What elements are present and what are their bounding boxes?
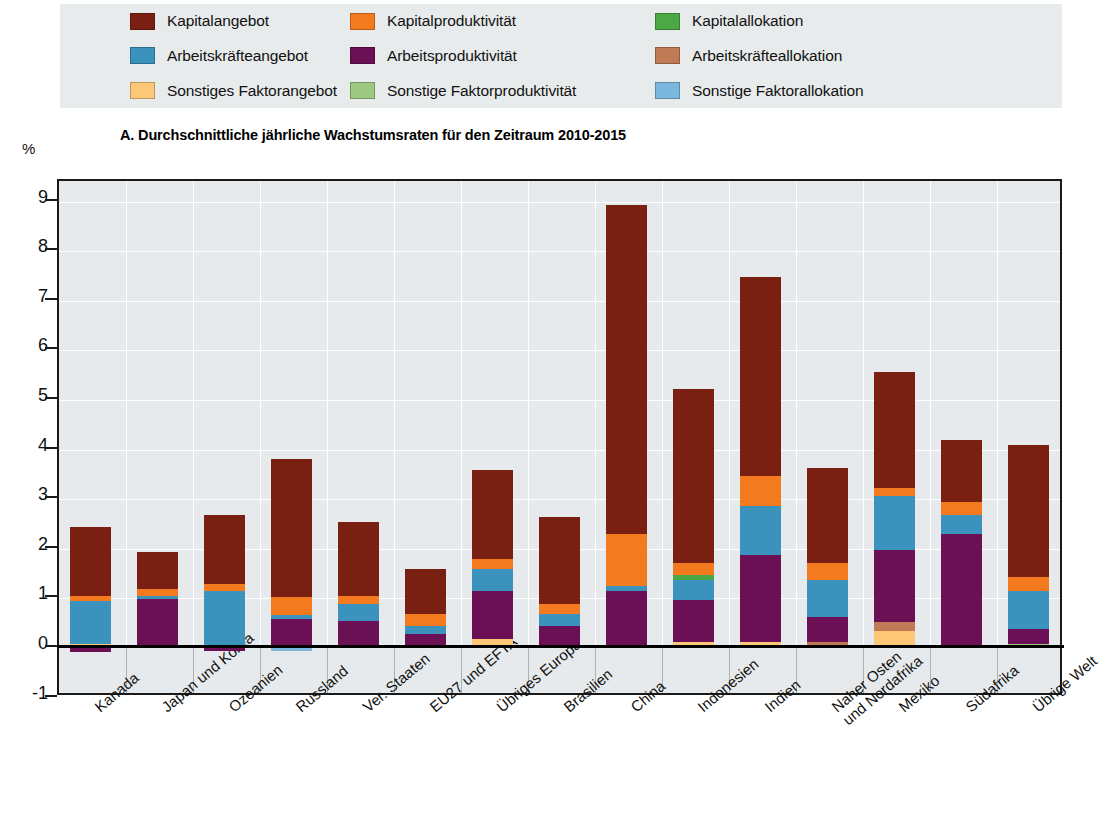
bar-segment[interactable] [539, 517, 579, 604]
bar-segment[interactable] [472, 559, 512, 569]
legend-item[interactable]: Arbeitskräfteallokation [627, 39, 1062, 74]
bar-group[interactable] [673, 179, 713, 695]
bar-segment[interactable] [1008, 629, 1048, 644]
bar-segment[interactable] [673, 389, 713, 563]
bar-segment[interactable] [271, 615, 311, 619]
legend-item[interactable]: Arbeitsproduktivität [332, 39, 627, 74]
legend-label: Kapitalproduktivität [387, 12, 516, 30]
bar-segment[interactable] [539, 614, 579, 626]
bar-segment[interactable] [874, 496, 914, 551]
bar-segment[interactable] [807, 563, 847, 580]
bar-group[interactable] [472, 179, 512, 695]
bar-segment[interactable] [539, 626, 579, 646]
bar-segment[interactable] [941, 534, 981, 646]
bar-group[interactable] [271, 179, 311, 695]
bar-segment[interactable] [606, 591, 646, 646]
bar-segment[interactable] [606, 586, 646, 591]
bar-segment[interactable] [807, 580, 847, 617]
y-axis-tick-label: 0 [8, 633, 48, 654]
bar-segment[interactable] [874, 631, 914, 646]
bar-segment[interactable] [472, 591, 512, 638]
bar-segment[interactable] [271, 597, 311, 614]
bar-segment[interactable] [807, 617, 847, 642]
y-axis-tick [45, 347, 57, 349]
bar-segment[interactable] [941, 515, 981, 535]
bar-segment[interactable] [740, 476, 780, 506]
legend-item[interactable]: Sonstige Faktorallokation [627, 73, 1062, 108]
x-axis-labels: KanadaJapan und KoreaOzeanienRusslandVer… [57, 695, 1062, 834]
bar-segment[interactable] [941, 440, 981, 502]
bar-group[interactable] [405, 179, 445, 695]
bar-segment[interactable] [204, 591, 244, 646]
bar-segment[interactable] [204, 584, 244, 591]
bar-segment[interactable] [1008, 445, 1048, 576]
bar-group[interactable] [137, 179, 177, 695]
bar-segment[interactable] [338, 621, 378, 646]
bar-group[interactable] [204, 179, 244, 695]
bar-segment[interactable] [874, 550, 914, 622]
bar-segment[interactable] [673, 580, 713, 600]
legend-swatch-icon [130, 47, 155, 64]
bar-segment[interactable] [1008, 577, 1048, 592]
legend-item[interactable]: Arbeitskräfteangebot [60, 39, 332, 74]
bar-segment[interactable] [807, 468, 847, 562]
legend-item[interactable]: Sonstige Faktorproduktivität [332, 73, 627, 108]
bar-segment[interactable] [1008, 591, 1048, 628]
bar-segment[interactable] [874, 372, 914, 489]
bar-segment[interactable] [673, 575, 713, 580]
bar-group[interactable] [539, 179, 579, 695]
bar-segment[interactable] [137, 599, 177, 646]
bar-segment[interactable] [70, 596, 110, 601]
legend-label: Kapitalangebot [167, 12, 269, 30]
legend-label: Sonstige Faktorproduktivität [387, 82, 576, 100]
bar-group[interactable] [338, 179, 378, 695]
bar-segment[interactable] [70, 601, 110, 643]
bar-segment[interactable] [606, 534, 646, 586]
bar-group[interactable] [1008, 179, 1048, 695]
bar-segment[interactable] [271, 619, 311, 646]
legend-item[interactable]: Kapitalproduktivität [332, 4, 627, 39]
bar-group[interactable] [941, 179, 981, 695]
legend-item[interactable]: Kapitalangebot [60, 4, 332, 39]
y-axis-tick [45, 397, 57, 399]
bar-segment[interactable] [673, 600, 713, 642]
legend-item[interactable]: Kapitalallokation [627, 4, 1062, 39]
bar-segment[interactable] [70, 527, 110, 596]
bar-group[interactable] [807, 179, 847, 695]
bar-segment[interactable] [137, 596, 177, 598]
legend-label: Arbeitskräfteallokation [692, 47, 842, 65]
bar-segment[interactable] [338, 604, 378, 621]
bar-segment[interactable] [472, 470, 512, 559]
y-axis-tick-label: 7 [8, 286, 48, 307]
bar-segment[interactable] [338, 596, 378, 603]
bars-container [57, 179, 1062, 695]
bar-segment[interactable] [271, 459, 311, 598]
bar-segment[interactable] [606, 205, 646, 535]
zero-line [57, 645, 1064, 648]
legend-label: Arbeitskräfteangebot [167, 47, 308, 65]
bar-segment[interactable] [137, 552, 177, 589]
bar-segment[interactable] [405, 569, 445, 614]
bar-segment[interactable] [740, 555, 780, 642]
bar-segment[interactable] [874, 622, 914, 631]
bar-segment[interactable] [740, 277, 780, 475]
bar-group[interactable] [606, 179, 646, 695]
y-axis-tick-label: 4 [8, 435, 48, 456]
bar-segment[interactable] [204, 515, 244, 584]
legend-item[interactable]: Sonstiges Faktorangebot [60, 73, 332, 108]
bar-segment[interactable] [137, 589, 177, 596]
legend-label: Kapitalallokation [692, 12, 803, 30]
bar-segment[interactable] [941, 502, 981, 514]
bar-group[interactable] [874, 179, 914, 695]
y-axis-tick-label: 9 [8, 187, 48, 208]
bar-segment[interactable] [405, 626, 445, 633]
bar-segment[interactable] [874, 488, 914, 495]
bar-group[interactable] [740, 179, 780, 695]
bar-segment[interactable] [405, 614, 445, 626]
bar-segment[interactable] [673, 563, 713, 575]
bar-segment[interactable] [539, 604, 579, 614]
bar-segment[interactable] [740, 506, 780, 556]
bar-segment[interactable] [338, 522, 378, 596]
bar-group[interactable] [70, 179, 110, 695]
bar-segment[interactable] [472, 569, 512, 591]
